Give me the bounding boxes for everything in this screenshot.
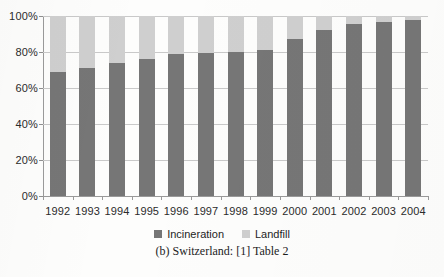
bar-segment-incineration <box>287 39 303 196</box>
bar-group <box>109 16 125 196</box>
bar-group <box>139 16 155 196</box>
x-axis-tick-mark <box>161 196 162 200</box>
bar-group <box>257 16 273 196</box>
bar-segment-incineration <box>139 59 155 196</box>
x-axis-tick-mark <box>250 196 251 200</box>
bar-segment-landfill <box>376 16 392 22</box>
x-axis-tick-mark <box>43 196 44 200</box>
bar-group <box>228 16 244 196</box>
bar-segment-incineration <box>109 63 125 196</box>
bar-group <box>50 16 66 196</box>
bar-group <box>316 16 332 196</box>
bar-segment-landfill <box>79 16 95 68</box>
bar-segment-incineration <box>198 53 214 196</box>
bar-segment-incineration <box>79 68 95 196</box>
bar-segment-incineration <box>228 52 244 196</box>
legend-square-icon <box>154 230 162 238</box>
bar-segment-landfill <box>50 16 66 72</box>
figure-stacked-bar-chart: 100% 80% 60% 40% 20% 0% 1992199319941995… <box>0 0 444 277</box>
x-axis-tick-mark <box>310 196 311 200</box>
x-axis-tick-mark <box>132 196 133 200</box>
x-axis-tick-mark <box>280 196 281 200</box>
bar-group <box>79 16 95 196</box>
bar-group <box>287 16 303 196</box>
bar-group <box>405 16 421 196</box>
legend-label: Landfill <box>255 228 290 240</box>
legend-square-icon <box>242 230 250 238</box>
x-axis-tick-mark <box>428 196 429 200</box>
x-axis-tick-mark <box>398 196 399 200</box>
bar-segment-incineration <box>346 24 362 196</box>
bar-group <box>168 16 184 196</box>
bar-group <box>198 16 214 196</box>
bar-segment-landfill <box>168 16 184 54</box>
legend-item-landfill: Landfill <box>242 228 290 240</box>
bar-segment-landfill <box>316 16 332 30</box>
gridline-baseline-0 <box>43 196 428 197</box>
x-axis-tick-mark <box>191 196 192 200</box>
bar-segment-incineration <box>405 20 421 196</box>
y-axis-tick-label: 100% <box>0 10 38 22</box>
x-axis-tick-mark <box>339 196 340 200</box>
bar-segment-incineration <box>257 50 273 196</box>
x-axis-tick-mark <box>221 196 222 200</box>
bar-segment-incineration <box>168 54 184 196</box>
y-axis-tick-label: 0% <box>0 190 38 202</box>
y-axis-tick-label: 40% <box>0 118 38 130</box>
x-axis-tick-mark <box>102 196 103 200</box>
figure-caption: (b) Switzerland: [1] Table 2 <box>0 244 444 259</box>
x-axis-tick-mark <box>73 196 74 200</box>
bar-segment-landfill <box>228 16 244 52</box>
plot-area <box>43 16 428 196</box>
bar-segment-landfill <box>257 16 273 50</box>
bar-group <box>376 16 392 196</box>
bar-segment-landfill <box>198 16 214 53</box>
bar-segment-landfill <box>287 16 303 39</box>
bar-segment-landfill <box>405 16 421 20</box>
bar-group <box>346 16 362 196</box>
x-axis-tick-mark <box>369 196 370 200</box>
bar-segment-incineration <box>316 30 332 196</box>
bar-segment-incineration <box>376 22 392 196</box>
y-axis-tick-label: 60% <box>0 82 38 94</box>
bar-segment-landfill <box>346 16 362 24</box>
bar-segment-landfill <box>109 16 125 63</box>
y-axis-tick-label: 80% <box>0 46 38 58</box>
chart-legend: Incineration Landfill <box>0 228 444 240</box>
x-axis-tick-label: 2004 <box>393 205 433 217</box>
bar-segment-incineration <box>50 72 66 196</box>
legend-label: Incineration <box>167 228 224 240</box>
bar-segment-landfill <box>139 16 155 59</box>
legend-item-incineration: Incineration <box>154 228 224 240</box>
y-axis-tick-label: 20% <box>0 154 38 166</box>
x-axis-labels: 1992199319941995199619971998199920002001… <box>0 205 444 223</box>
